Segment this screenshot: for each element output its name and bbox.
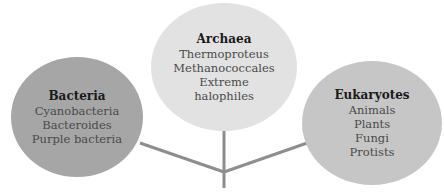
bacteria-item: Purple bacteria (32, 132, 122, 146)
bacteria-branch-line (140, 143, 224, 172)
eukaryotes-item: Fungi (355, 131, 389, 145)
archaea-item: halophiles (194, 89, 254, 103)
archaea-node: Archaea Thermoproteus Methanococcales Ex… (151, 3, 297, 131)
archaea-title: Archaea (197, 32, 252, 46)
eukaryotes-item: Protists (350, 145, 395, 159)
bacteria-title: Bacteria (48, 89, 105, 103)
bacteria-item: Bacteroides (42, 118, 111, 132)
archaea-item: Extreme (199, 75, 249, 89)
bacteria-item: Cyanobacteria (35, 104, 120, 118)
eukaryotes-branch-line (224, 142, 310, 172)
eukaryotes-item: Plants (354, 117, 390, 131)
eukaryotes-node: Eukaryotes Animals Plants Fungi Protists (302, 61, 442, 185)
eukaryotes-item: Animals (349, 103, 396, 117)
bacteria-node: Bacteria Cyanobacteria Bacteroides Purpl… (11, 57, 143, 177)
archaea-item: Methanococcales (173, 61, 274, 75)
archaea-item: Thermoproteus (179, 47, 269, 61)
eukaryotes-title: Eukaryotes (334, 88, 409, 102)
